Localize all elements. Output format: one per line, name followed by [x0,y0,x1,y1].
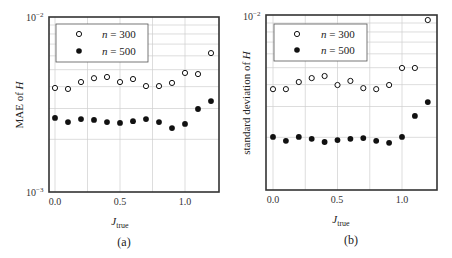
data-point-open [169,80,174,85]
data-point-filled [78,116,84,122]
data-point-open [130,76,135,81]
filled-circle-marker-icon [294,47,300,53]
data-point-open [374,87,379,92]
data-point-filled [169,125,175,131]
panel-b-xtick-2: 1.0 [396,194,409,205]
legend-label-n300: n = 300 [102,28,136,40]
data-point-filled [309,136,315,142]
panel-a-xlabel: Jtrue [111,215,129,230]
data-point-filled [425,99,431,105]
data-point-open [195,71,200,76]
data-point-open [156,83,161,88]
data-point-open [425,17,430,22]
open-circle-marker-icon [294,31,299,36]
data-point-filled [195,106,201,112]
data-point-filled [335,137,341,143]
data-point-filled [283,138,289,144]
data-point-open [270,87,275,92]
panel-a-ytick-bottom: 10−3 [26,186,44,198]
data-point-open [65,86,70,91]
data-point-filled [182,121,188,127]
data-point-filled [399,134,405,140]
data-point-filled [296,134,302,140]
data-point-filled [52,115,58,121]
panel-a-xtick-1: 0.5 [114,196,127,207]
data-point-open [182,70,187,75]
data-point-filled [104,119,110,125]
panel-b-xtick-1: 0.5 [331,194,344,205]
data-point-filled [348,136,354,142]
data-point-filled [270,134,276,140]
data-point-open [387,82,392,87]
panel-b-xlabel: Jtrue [332,213,350,228]
data-point-open [78,79,83,84]
data-point-open [296,79,301,84]
data-point-filled [130,118,136,124]
panel-a-ytick-top: 10−2 [26,11,44,23]
panel-a-xtick-0: 0.0 [49,196,62,207]
data-point-open [104,74,109,79]
data-point-open [322,73,327,78]
data-point-open [117,79,122,84]
panel-b-ytick-top: 10−2 [243,10,261,22]
data-point-open [361,86,366,91]
data-point-open [283,87,288,92]
panel-b-ylabel: standard deviation of H [240,50,252,155]
data-point-filled [373,138,379,144]
data-point-filled [360,135,366,141]
data-point-filled [412,113,418,119]
data-point-filled [117,120,123,126]
panel-b-legend: n = 300 n = 500 [274,24,367,61]
panel-b-xtick-0: 0.0 [267,194,280,205]
legend-label-n500: n = 500 [102,45,136,57]
data-point-open [309,75,314,80]
data-point-filled [208,98,214,104]
data-point-open [91,76,96,81]
legend-label-n300: n = 300 [321,28,355,40]
data-point-filled [143,116,149,122]
data-point-filled [322,139,328,145]
data-point-open [348,78,353,83]
panel-a-legend: n = 300 n = 500 [56,24,148,62]
panel-b-caption: (b) [344,233,358,247]
panel-a-ylabel: MAE of H [13,80,25,128]
data-point-open [335,82,340,87]
data-point-open [208,50,213,55]
legend-label-n500: n = 500 [321,44,355,56]
data-point-filled [65,119,71,125]
figure: n = 300 n = 500 10−2 10−3 0.0 0.5 1.0 Jt… [0,0,452,258]
panel-a: n = 300 n = 500 10−2 10−3 0.0 0.5 1.0 Jt… [13,11,219,249]
panel-b: n = 300 n = 500 10−2 0.0 0.5 1.0 Jtrue s… [240,10,437,247]
filled-circle-marker-icon [76,48,82,54]
open-circle-marker-icon [76,31,81,36]
panel-a-series-n500 [52,98,214,131]
panel-a-xtick-2: 1.0 [179,196,192,207]
data-point-open [412,65,417,70]
data-point-filled [156,119,162,125]
data-point-open [52,85,57,90]
data-point-filled [386,140,392,146]
data-point-filled [91,117,97,123]
data-point-open [399,65,404,70]
panel-a-caption: (a) [117,235,130,249]
data-point-open [143,83,148,88]
